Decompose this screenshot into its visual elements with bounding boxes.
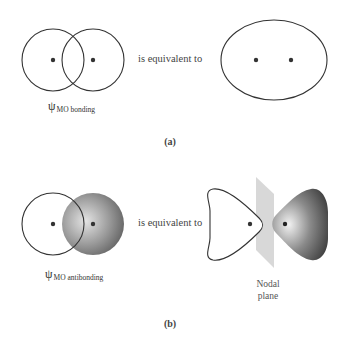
nodal-label-line2: plane bbox=[243, 290, 293, 302]
nucleus-dot bbox=[248, 222, 252, 226]
antibonding-left-lobe bbox=[208, 189, 263, 260]
psi-label-bonding: ψMO bonding bbox=[48, 99, 95, 114]
nodal-label-line1: Nodal bbox=[243, 278, 293, 290]
bonding-overlap-circles bbox=[22, 29, 124, 91]
bonding-ellipse bbox=[221, 20, 327, 100]
diagram-canvas bbox=[0, 0, 345, 341]
nodal-plane-label: Nodal plane bbox=[243, 278, 293, 302]
antibonding-right-lobe bbox=[272, 189, 328, 260]
psi-symbol: ψ bbox=[45, 267, 53, 281]
psi-subscript: MO bonding bbox=[57, 105, 96, 114]
antibonding-overlap bbox=[22, 193, 124, 255]
equivalence-text-b: is equivalent to bbox=[138, 217, 202, 228]
psi-subscript: MO antibonding bbox=[54, 273, 104, 282]
equivalence-text-a: is equivalent to bbox=[138, 53, 202, 64]
nucleus-dot bbox=[283, 222, 287, 226]
psi-symbol: ψ bbox=[48, 99, 56, 113]
caption-a: (a) bbox=[150, 136, 190, 147]
caption-b: (b) bbox=[150, 318, 190, 329]
psi-label-antibonding: ψMO antibonding bbox=[45, 267, 103, 282]
